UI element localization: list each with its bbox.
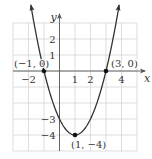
labeled-points: (−1, 0)(3, 0)(1, −4) <box>14 58 138 150</box>
point-marker <box>73 133 78 138</box>
x-axis-label: x <box>144 72 151 85</box>
x-tick-label: −2 <box>21 74 36 85</box>
point-label: (−1, 0) <box>14 58 49 69</box>
x-tick-label: 4 <box>118 74 124 85</box>
point-marker <box>104 69 109 74</box>
x-tick-label: 2 <box>87 74 93 85</box>
y-tick-label: −4 <box>41 130 56 141</box>
y-axis-label: y <box>50 11 58 24</box>
point-label: (3, 0) <box>111 58 138 69</box>
y-tick-label: 1 <box>49 50 55 61</box>
y-tick-label: −3 <box>41 114 56 125</box>
x-tick-label: 1 <box>72 74 78 85</box>
parabola-graph: xy −212421−3−4 (−1, 0)(3, 0)(1, −4) <box>0 0 152 159</box>
point-marker <box>42 69 47 74</box>
point-label: (1, −4) <box>71 139 106 150</box>
y-tick-label: 2 <box>49 34 55 45</box>
grid-lines <box>13 23 137 151</box>
